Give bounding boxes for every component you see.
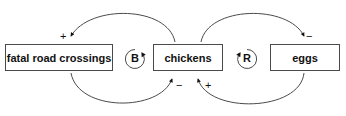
causal-loop-diagram-canvas: B R fatal road crossings chickens eggs +… [0,0,346,116]
polarity-label-chickens-to-fatal-road-crossings: + [60,31,66,42]
polarity-label-fatal-road-crossings-to-chickens: − [176,80,182,91]
node-label-fatal-road-crossings: fatal road crossings [7,52,112,64]
loop-arrow-reinforcing-icon: R [237,49,257,68]
loop-arrow-balancing-icon: B [125,49,145,68]
loop-letter-reinforcing: R [243,52,251,64]
node-fatal-road-crossings[interactable]: fatal road crossings [5,44,113,71]
node-eggs[interactable]: eggs [270,44,340,71]
link-eggs-to-chickens [198,73,304,104]
link-fatal-road-crossings-to-chickens [71,73,172,103]
loop-letter-balancing: B [131,52,139,64]
node-chickens[interactable]: chickens [153,44,223,71]
link-chickens-to-eggs [201,13,304,42]
link-chickens-to-fatal-road-crossings [71,13,175,42]
polarity-label-eggs-to-chickens: + [205,80,211,91]
polarity-label-chickens-to-eggs: − [306,31,312,42]
node-label-eggs: eggs [292,52,318,64]
node-label-chickens: chickens [164,52,211,64]
